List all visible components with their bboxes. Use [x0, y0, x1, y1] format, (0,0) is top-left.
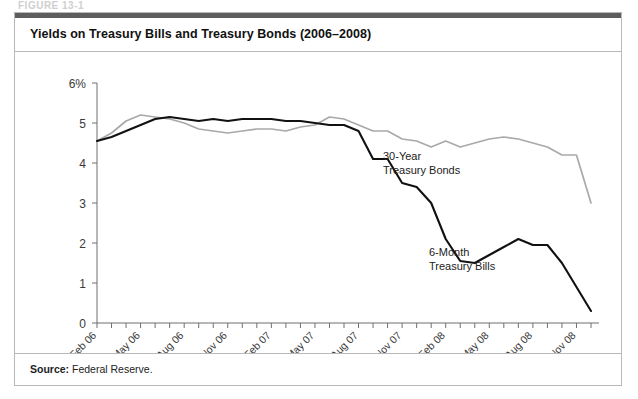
figure-number-label: FIGURE 13-1 [18, 0, 218, 12]
x-tick-label: Feb 07 [241, 329, 273, 353]
source-note: Source: Federal Reserve. [30, 363, 153, 375]
x-tick-label: Aug 07 [328, 329, 360, 353]
y-tick-label: 5 [79, 117, 86, 131]
figure-source-bar: Source: Federal Reserve. [15, 353, 621, 385]
x-tick-label: Nov 07 [372, 329, 404, 353]
annotation-bonds-line2: Treasury Bonds [383, 164, 461, 176]
annotation-bills: 6-Month Treasury Bills [429, 246, 496, 272]
annotation-bills-line1: 6-Month [429, 246, 469, 258]
annotation-bonds: 30-Year Treasury Bonds [383, 150, 461, 176]
series-line-treasury-bonds [97, 115, 591, 203]
x-tick-label: Nov 08 [546, 329, 578, 353]
x-tick-label: Nov 06 [197, 329, 229, 353]
x-tick-label: Feb 06 [67, 329, 99, 353]
figure-container: Yields on Treasury Bills and Treasury Bo… [14, 12, 622, 386]
x-tick-label: May 06 [109, 329, 142, 353]
y-tick-label: 2 [79, 237, 86, 251]
y-tick-label: 0 [79, 317, 86, 331]
y-tick-label: 1 [79, 277, 86, 291]
y-tick-label: 6% [69, 77, 87, 91]
x-tick-label: May 07 [284, 329, 317, 353]
line-chart: 0123456% Feb 06May 06Aug 06Nov 06Feb 07M… [15, 53, 621, 353]
annotation-bills-line2: Treasury Bills [429, 260, 496, 272]
source-value: Federal Reserve. [72, 363, 153, 375]
series-line-treasury-bills [97, 117, 591, 311]
x-tick-label: Aug 08 [502, 329, 534, 353]
figure-title: Yields on Treasury Bills and Treasury Bo… [30, 27, 371, 41]
y-axis: 0123456% [69, 77, 97, 331]
y-tick-label: 3 [79, 197, 86, 211]
x-tick-label: Aug 06 [154, 329, 186, 353]
y-tick-label: 4 [79, 157, 86, 171]
x-axis: Feb 06May 06Aug 06Nov 06Feb 07May 07Aug … [67, 323, 599, 353]
x-tick-label: May 08 [458, 329, 491, 353]
annotation-bonds-line1: 30-Year [383, 150, 421, 162]
x-tick-label: Feb 08 [416, 329, 448, 353]
chart-plot-area: 0123456% Feb 06May 06Aug 06Nov 06Feb 07M… [15, 53, 621, 353]
source-label: Source: [30, 363, 69, 375]
chart-series-group [97, 115, 591, 311]
figure-title-bar: Yields on Treasury Bills and Treasury Bo… [15, 18, 621, 52]
